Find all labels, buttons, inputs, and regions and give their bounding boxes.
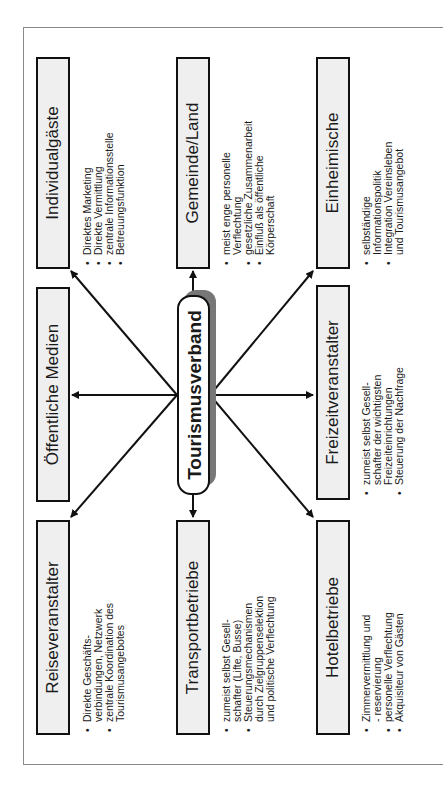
center-node-tourismusverband: Tourismusverband [177,295,210,495]
arrow-to-reiseveranstalter [71,395,177,517]
arrow-to-hotelbetriebe [210,395,313,517]
center-node-label: Tourismusverband [183,297,207,493]
arrow-to-einheimische [210,271,313,395]
arrow-to-individualgaeste [71,271,177,395]
